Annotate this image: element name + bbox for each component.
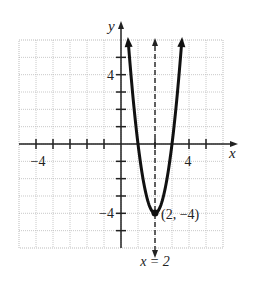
vertex-label: (2, −4)	[161, 207, 200, 223]
curve-arrow-right-icon	[177, 37, 185, 47]
x-axis-label: x	[228, 145, 236, 161]
y-axis-arrow-icon	[118, 21, 124, 29]
symmetry-arrow-up-icon	[152, 38, 158, 46]
parabola-graph: x y −4 4 4 −4 (2, −4) x = 2	[0, 0, 256, 287]
symmetry-label: x = 2	[139, 254, 170, 269]
x-tick-label-neg4: −4	[31, 154, 46, 169]
curve-arrow-left-icon	[125, 37, 133, 47]
x-tick-label-4: 4	[185, 154, 192, 169]
y-tick-label-4: 4	[107, 68, 114, 83]
y-tick-label-neg4: −4	[99, 206, 114, 221]
y-axis-label: y	[106, 18, 115, 34]
vertex-point	[152, 210, 159, 217]
